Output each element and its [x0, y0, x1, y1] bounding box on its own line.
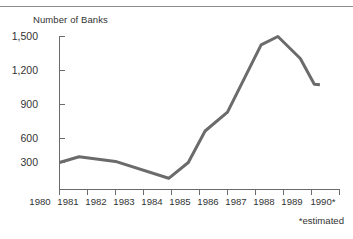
x-axis-tick-label: 1985: [166, 196, 194, 207]
x-axis-tick-label-estimated: 1990*: [306, 196, 340, 207]
chart-footnote: *estimated: [299, 215, 344, 226]
x-axis-tick-label: 1984: [138, 196, 166, 207]
x-axis-ticks: [60, 190, 340, 195]
x-axis-tick-label: 1983: [110, 196, 138, 207]
chart-figure: Number of Banks 1,500 1,200 900 600 300: [0, 0, 353, 239]
x-axis-tick-label: 1988: [250, 196, 278, 207]
x-axis-tick-label: 1986: [194, 196, 222, 207]
x-axis-tick-label: 1989: [278, 196, 306, 207]
x-axis-tick-label: 1981: [54, 196, 82, 207]
x-axis-tick-label: 1982: [82, 196, 110, 207]
x-axis-tick-label: 1980: [26, 196, 54, 207]
data-series-line: [60, 37, 320, 179]
x-axis-tick-label: 1987: [222, 196, 250, 207]
y-axis-ticks: [60, 37, 66, 163]
